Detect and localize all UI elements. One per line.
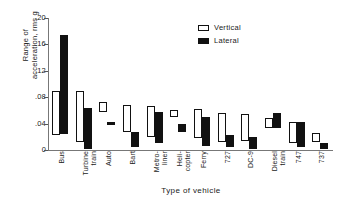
plot-area	[49, 18, 333, 150]
x-tick-label: 737	[318, 151, 346, 163]
bar-lateral-737	[320, 143, 328, 148]
bar-vertical-helicopter	[170, 110, 178, 117]
bar-lateral-747	[297, 122, 305, 147]
y-tick-label: .04	[24, 120, 46, 128]
chart-legend: Vertical Lateral	[198, 22, 241, 48]
x-axis-title-text: Type of vehicle	[125, 186, 220, 195]
y-tick-label: .20	[24, 14, 46, 22]
y-tick-label: .16	[24, 40, 46, 48]
bar-vertical-737	[312, 133, 320, 142]
bar-lateral-turbine-train	[84, 108, 92, 149]
bar-lateral-diesel-train	[273, 113, 281, 128]
bar-vertical-turbine-train	[76, 91, 84, 142]
bar-lateral-727	[226, 135, 234, 147]
bar-lateral-bart	[131, 132, 139, 148]
range-bar-chart: Range of acceleration, rms g 0.04.08.12.…	[0, 0, 346, 206]
bar-lateral-helicopter	[178, 124, 186, 132]
y-tick-label: .08	[24, 93, 46, 101]
y-tick-label: 0	[24, 146, 46, 154]
bar-vertical-metroliner	[147, 106, 155, 136]
bar-vertical-auto	[99, 102, 107, 111]
x-axis-title: Type of vehicle	[0, 186, 346, 195]
legend-label-vertical: Vertical	[214, 22, 241, 33]
bar-vertical-bart	[123, 105, 131, 131]
legend-swatch-lateral-icon	[198, 38, 209, 44]
bar-vertical-bus	[52, 91, 60, 136]
x-axis-tick-labels: BusTurbinetrainAutoBartMetro-linerHeli-c…	[49, 151, 333, 185]
y-tick-label: .12	[24, 67, 46, 75]
bar-vertical-ferry	[194, 109, 202, 138]
bar-vertical-747	[289, 122, 297, 143]
bar-vertical-diesel-train	[265, 118, 273, 127]
bar-lateral-auto	[107, 122, 115, 125]
bar-lateral-metroliner	[155, 112, 163, 144]
legend-label-lateral: Lateral	[214, 35, 239, 46]
bar-lateral-dc-9	[249, 137, 257, 149]
legend-swatch-vertical-icon	[198, 25, 209, 31]
bar-vertical-727	[218, 113, 226, 142]
bar-lateral-ferry	[202, 117, 210, 146]
legend-item-lateral: Lateral	[198, 35, 241, 46]
y-axis-ticks: 0.04.08.12.16.20	[20, 14, 46, 156]
legend-item-vertical: Vertical	[198, 22, 241, 33]
bar-lateral-bus	[60, 35, 68, 134]
bar-vertical-dc-9	[241, 114, 249, 140]
